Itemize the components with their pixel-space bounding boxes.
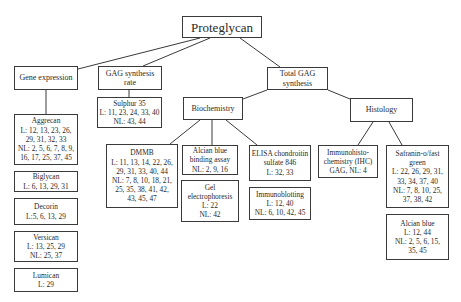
- node-line: L:5, 6, 13, 29: [26, 212, 66, 221]
- node-line: green: [409, 158, 425, 167]
- node-lumican: Lumican L: 29: [14, 268, 78, 292]
- node-line: Immunohisto-: [327, 148, 369, 157]
- node-alcian-blue-binding-assay: Alcian blue binding assay NL: 2, 9, 16: [182, 145, 238, 175]
- node-gel-electrophoresis: Gel electrophoresis L: 22 NL: 42: [181, 180, 239, 222]
- node-line: 35, 45: [408, 246, 426, 255]
- node-sulphur-35: Sulphur 35 L: 11, 23, 24, 33, 40 NL: 43,…: [97, 97, 162, 128]
- node-line: NL: 7, 8, 10, 18, 21,: [112, 176, 172, 185]
- node-elisa: ELISA chondroitin sulfate 846 L: 32, 33: [249, 145, 311, 181]
- node-proteglycan: Proteglycan: [182, 16, 262, 38]
- node-line: NL: 7, 8, 10, 25,: [393, 186, 442, 195]
- node-line: L: 22, 26, 29, 31,: [392, 167, 443, 176]
- node-line: 29, 31, 32, 33: [26, 135, 67, 144]
- node-line: L: 29: [38, 280, 54, 289]
- node-line: 16, 17, 25, 37, 45: [20, 153, 72, 162]
- node-label: GAG synthesis: [106, 69, 155, 79]
- node-line: L: 11, 23, 24, 33, 40: [100, 108, 160, 117]
- node-line: NL: 43, 44: [113, 117, 145, 126]
- node-safranin-o-fast-green: Safranin-o/fast green L: 22, 26, 29, 31,…: [386, 145, 449, 208]
- node-label: Total GAG: [280, 69, 316, 79]
- node-line: Safranin-o/fast: [396, 149, 440, 158]
- node-gene-expression: Gene expression: [14, 66, 78, 90]
- node-title: Lumican: [33, 271, 59, 280]
- node-dmmb: DMMB L: 11, 13, 14, 22, 26, 29, 31, 33, …: [106, 144, 178, 208]
- node-line: L: 11, 13, 14, 22, 26,: [111, 158, 173, 167]
- node-label: rate: [124, 78, 136, 88]
- node-label: Gene expression: [19, 73, 72, 83]
- node-line: 33, 34, 37, 40: [397, 177, 438, 186]
- node-label: Histology: [366, 105, 398, 115]
- node-alcian-blue: Alcian blue L: 12, 44 NL: 2, 5, 6, 15, 3…: [386, 214, 449, 260]
- node-line: 37, 38, 42: [403, 195, 433, 204]
- node-biglycan: Biglycan L: 6, 13, 29, 31: [14, 171, 78, 192]
- node-title: DMMB: [130, 148, 153, 157]
- node-title: Sulphur 35: [113, 99, 146, 108]
- node-line: NL: 2, 9, 16: [192, 165, 228, 174]
- node-line: 25, 35, 38, 41, 42,: [115, 185, 169, 194]
- node-line: NL: 6, 10, 42, 45: [255, 208, 306, 217]
- node-line: binding assay: [190, 155, 230, 164]
- node-line: L: 12, 44: [404, 228, 431, 237]
- node-line: Immunoblotting: [256, 190, 304, 199]
- node-line: L: 32, 33: [267, 168, 294, 177]
- node-versican: Versican L: 13, 25, 29 NL: 25, 37: [14, 231, 78, 262]
- node-line: NL: 42: [199, 210, 220, 219]
- node-aggrecan: Aggrecan L: 12, 13, 23, 26, 29, 31, 32, …: [14, 114, 78, 165]
- node-line: electrophoresis: [188, 192, 233, 201]
- node-label: synthesis: [283, 79, 312, 89]
- node-label: Proteglycan: [191, 20, 253, 35]
- node-line: sulfate 846: [264, 158, 297, 167]
- node-line: ELISA chondroitin: [252, 149, 308, 158]
- node-immunoblotting: Immunoblotting L: 12, 40 NL: 6, 10, 42, …: [249, 187, 311, 220]
- node-line: 43, 45, 47: [127, 194, 157, 203]
- node-title: Biglycan: [33, 172, 60, 181]
- node-line: NL: 2, 5, 6, 7, 8, 9,: [18, 144, 74, 153]
- node-line: L: 12, 40: [267, 199, 294, 208]
- node-biochemistry: Biochemistry: [183, 97, 243, 120]
- node-line: GAG, NL: 4: [329, 166, 366, 175]
- node-total-gag-synthesis: Total GAG synthesis: [267, 67, 328, 90]
- node-decorin: Decorin L:5, 6, 13, 29: [14, 198, 78, 225]
- node-title: Decorin: [34, 202, 58, 211]
- node-title: Aggrecan: [32, 116, 61, 125]
- node-line: Alcian blue: [193, 146, 227, 155]
- node-ihc: Immunohisto- chemistry (IHC) GAG, NL: 4: [318, 145, 378, 178]
- node-line: NL: 2, 5, 6, 15,: [395, 237, 440, 246]
- node-line: NL: 25, 37: [30, 251, 62, 260]
- node-histology: Histology: [350, 98, 413, 122]
- node-line: Gel: [205, 183, 216, 192]
- node-line: 29, 31, 33, 40, 44: [116, 167, 168, 176]
- node-gag-synthesis-rate: GAG synthesis rate: [98, 66, 162, 90]
- node-line: chemistry (IHC): [324, 157, 373, 166]
- node-title: Versican: [33, 233, 58, 242]
- node-line: Alcian blue: [400, 219, 434, 228]
- node-line: L: 22: [202, 201, 218, 210]
- node-label: Biochemistry: [191, 104, 234, 114]
- node-line: L: 6, 13, 29, 31: [23, 182, 68, 191]
- node-line: L: 12, 13, 23, 26,: [21, 126, 72, 135]
- node-line: L: 13, 25, 29: [27, 242, 65, 251]
